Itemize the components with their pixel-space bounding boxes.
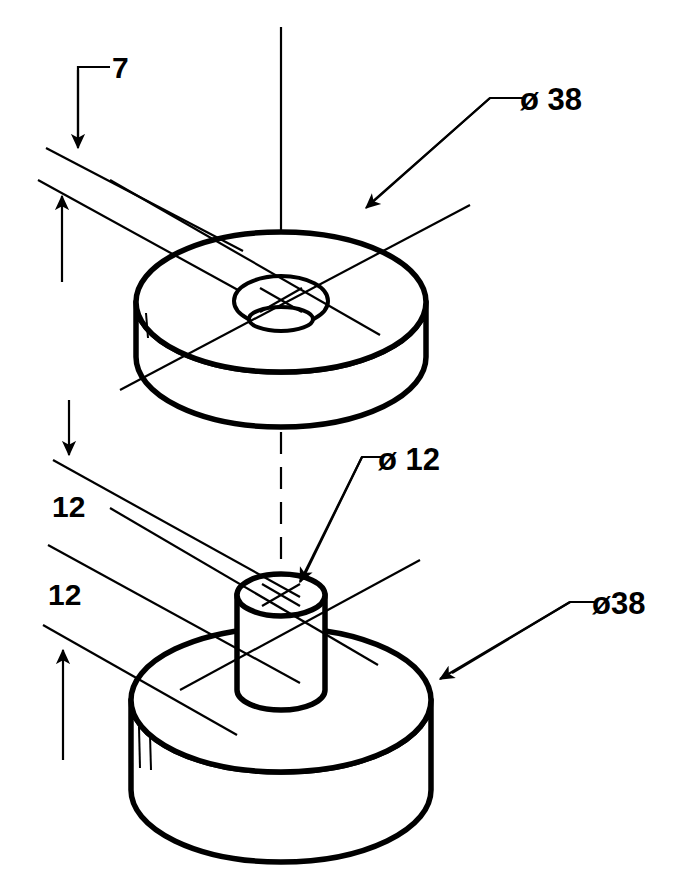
upper-washer-part bbox=[110, 180, 470, 427]
dia-38-bottom-label: ø38 bbox=[592, 586, 645, 621]
dia-38-bottom-leader bbox=[452, 602, 595, 673]
dim-12-extension-1 bbox=[53, 460, 300, 597]
dia-12-leader bbox=[305, 457, 382, 574]
dia-12-label: ø 12 bbox=[378, 442, 440, 477]
upper-washer-bore-bottom-lip bbox=[249, 307, 313, 331]
dim-7-leader bbox=[78, 67, 110, 143]
dia-38-top-label: ø 38 bbox=[520, 82, 582, 117]
dia-38-top-leader bbox=[372, 98, 523, 202]
lower-boss-disc-part bbox=[110, 508, 431, 862]
dim-12-upper-label: 12 bbox=[52, 490, 85, 523]
dimension-dia-38-bottom: ø38 bbox=[440, 586, 645, 679]
dimension-dia-38-top: ø 38 bbox=[366, 82, 582, 208]
dia-38-bottom-arrow bbox=[440, 602, 570, 679]
dim-12-lower-label: 12 bbox=[48, 578, 81, 611]
dia-38-top-arrow bbox=[366, 98, 490, 208]
technical-drawing-canvas: 7 ø 38 12 12 ø 12 bbox=[0, 0, 698, 891]
dia-12-arrow bbox=[300, 457, 362, 582]
isometric-drawing: 7 ø 38 12 12 ø 12 bbox=[0, 0, 698, 891]
dim-7-label: 7 bbox=[112, 51, 129, 84]
